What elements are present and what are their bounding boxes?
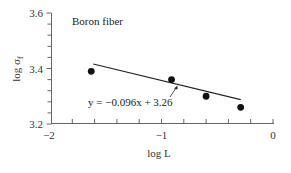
equation-arrow-icon bbox=[170, 86, 178, 98]
svg-text:log σf: log σf bbox=[10, 56, 25, 82]
x-tick-label: 0 bbox=[270, 129, 276, 141]
x-tick-label: −1 bbox=[156, 129, 168, 141]
x-axis-label: log L bbox=[147, 147, 171, 159]
data-point bbox=[88, 68, 95, 75]
x-tick-label: −2 bbox=[43, 129, 55, 141]
y-axis-label-main: log σ bbox=[10, 59, 22, 82]
chart-annotation-title: Boron fiber bbox=[72, 15, 123, 27]
fit-line bbox=[93, 64, 240, 100]
axes: 3.23.43.6−2−10 bbox=[29, 7, 276, 141]
y-axis-label: log σf bbox=[10, 56, 25, 82]
y-axis-label-subscript: f bbox=[16, 56, 25, 59]
y-tick-label: 3.2 bbox=[29, 118, 43, 130]
y-tick-label: 3.6 bbox=[29, 7, 43, 19]
y-tick-label: 3.4 bbox=[29, 63, 43, 75]
chart: 3.23.43.6−2−10 Boron fiber y = −0.096x +… bbox=[0, 0, 291, 173]
fit-equation-label: y = −0.096x + 3.26 bbox=[88, 96, 173, 108]
data-point bbox=[203, 93, 210, 100]
data-point bbox=[237, 104, 244, 111]
data-point bbox=[168, 76, 175, 83]
